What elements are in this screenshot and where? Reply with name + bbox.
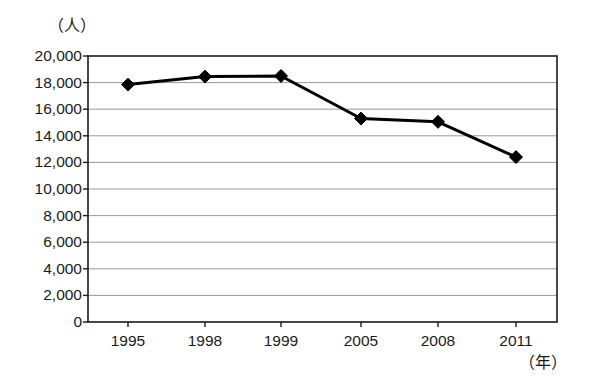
x-axis-tick-label: 1999 (251, 333, 311, 349)
x-axis-tick-labels: 199519981999200520082011 (0, 0, 589, 382)
x-axis-unit-label: （年） (519, 355, 567, 371)
line-chart: （人） 20,00018,00016,00014,00012,00010,000… (0, 0, 589, 382)
x-axis-tick-label: 2008 (408, 333, 468, 349)
x-axis-tick-label: 1995 (98, 333, 158, 349)
x-axis-tick-label: 2005 (331, 333, 391, 349)
x-axis-tick-label: 2011 (486, 333, 546, 349)
x-axis-tick-label: 1998 (175, 333, 235, 349)
